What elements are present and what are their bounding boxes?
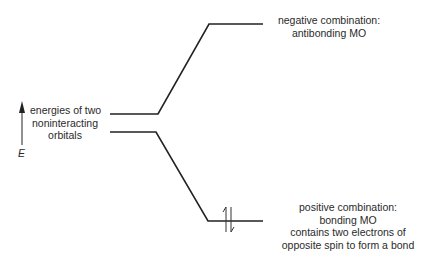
energy-axis-arrow [19, 101, 25, 145]
energy-axis-label: E [18, 147, 25, 159]
electron-pair-icon [223, 207, 234, 232]
antibonding-path [110, 24, 263, 114]
antibonding-label: negative combination: antibonding MO [274, 14, 384, 39]
bonding-path [110, 132, 263, 221]
bonding-label: positive combination: bonding MO contain… [278, 201, 418, 251]
noninteracting-label: energies of two noninteracting orbitals [30, 104, 100, 142]
